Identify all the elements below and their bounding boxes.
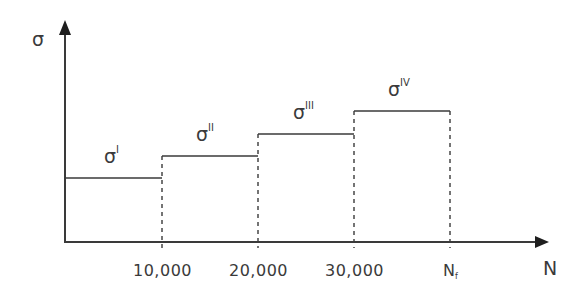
y-axis-arrow-icon — [59, 20, 71, 35]
x-axis-label: N — [543, 257, 557, 279]
y-axis-label: σ — [32, 28, 44, 50]
step-1-label: σI — [104, 144, 119, 167]
x-tick-nf: Nf — [443, 261, 458, 281]
step-2-label: σII — [196, 122, 214, 145]
step-3-label: σIII — [293, 100, 314, 123]
x-tick-10000: 10,000 — [133, 261, 192, 280]
step-4-label: σIV — [388, 77, 410, 100]
x-tick-20000: 20,000 — [229, 261, 288, 280]
x-axis-arrow-icon — [535, 236, 549, 248]
x-tick-30000: 30,000 — [325, 261, 384, 280]
step-stress-diagram: σ N σI σII σIII σIV 10,000 20,000 30,000… — [0, 0, 584, 297]
